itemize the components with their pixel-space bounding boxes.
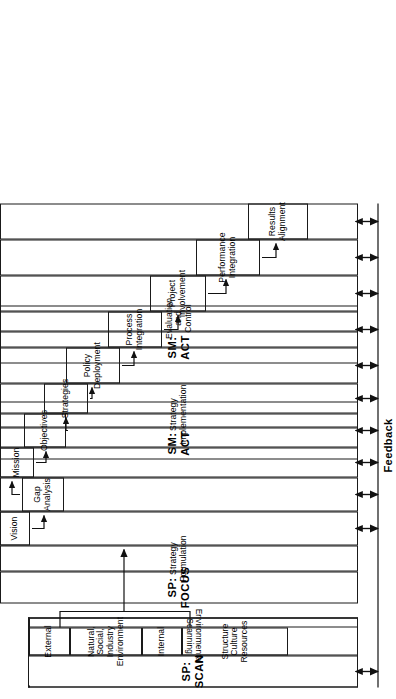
feedback-double-arrows xyxy=(362,221,378,671)
